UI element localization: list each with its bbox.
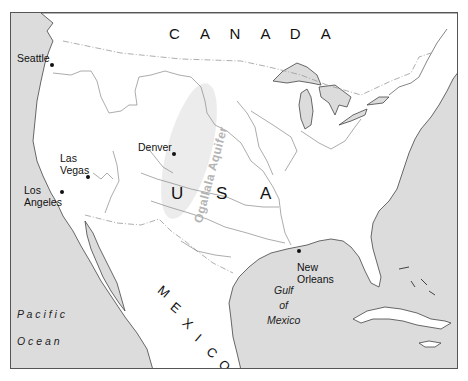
city-dot-new-orleans xyxy=(297,249,301,253)
jamaica xyxy=(419,341,441,347)
gulf-line: Gulf xyxy=(267,283,300,298)
pacific-line: P a c i f i c xyxy=(17,309,65,321)
usa-letter: S xyxy=(216,184,227,203)
canada-letter: C xyxy=(169,25,180,42)
canada-letter: A xyxy=(200,25,209,42)
canada-letter: N xyxy=(229,25,240,42)
new-orleans-line: Orleans xyxy=(297,274,334,286)
city-dot-las-vegas xyxy=(86,175,90,179)
label-los-angeles: Los Angeles xyxy=(24,185,62,208)
new-orleans-line: New xyxy=(297,262,334,274)
canada-letter: A xyxy=(260,25,269,42)
canada-letter: D xyxy=(290,25,301,42)
gulf-line: of xyxy=(267,298,300,313)
los-angeles-line: Los xyxy=(24,185,62,197)
usa-letter: A xyxy=(260,184,271,203)
map-frame: C A N A D A U S A M E X I C O Ogallala A… xyxy=(10,12,458,369)
label-pacific-ocean: P a c i f i c O c e a n xyxy=(17,309,65,347)
pacific-line: O c e a n xyxy=(17,336,65,348)
los-angeles-line: Angeles xyxy=(24,197,62,209)
city-dot-seattle xyxy=(50,63,54,67)
las-vegas-line: Vegas xyxy=(60,165,89,177)
city-dot-denver xyxy=(172,152,176,156)
label-new-orleans: New Orleans xyxy=(297,262,334,285)
label-denver: Denver xyxy=(138,142,172,154)
city-dot-los-angeles xyxy=(60,190,64,194)
bahamas xyxy=(399,267,435,295)
label-las-vegas: Las Vegas xyxy=(60,153,89,176)
canada-letter: A xyxy=(321,25,331,42)
label-seattle: Seattle xyxy=(17,53,50,65)
las-vegas-line: Las xyxy=(60,153,89,165)
cuba xyxy=(353,307,451,329)
label-usa: U S A xyxy=(171,185,271,204)
label-canada: C A N A D A xyxy=(169,26,331,43)
label-gulf-of-mexico: Gulf of Mexico xyxy=(267,283,300,329)
gulf-line: Mexico xyxy=(267,313,300,328)
usa-letter: U xyxy=(171,184,183,203)
